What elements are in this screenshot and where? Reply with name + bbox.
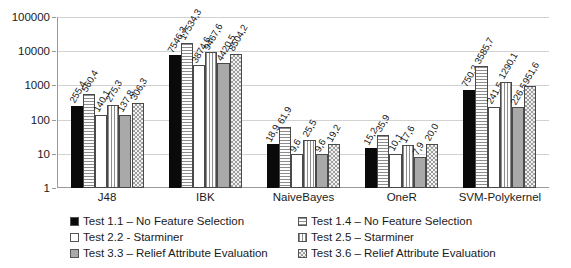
x-axis-category-label: OneR	[387, 190, 417, 204]
legend-item: Test 3.3 – Relief Attribute Evaluation	[70, 245, 282, 261]
y-axis-tick-label: 10000	[18, 45, 50, 57]
legend-swatch-icon	[70, 217, 79, 226]
bar: 140,1	[95, 115, 107, 188]
legend-item: Test 1.4 – No Feature Selection	[298, 213, 510, 229]
legend-label: Test 3.6 – Relief Attribute Evaluation	[311, 246, 496, 260]
legend-item: Test 2.5 – Starminer	[298, 229, 510, 245]
bar: 19,2	[328, 144, 340, 188]
x-axis-labels: J48IBKNaiveBayesOneRSVM-Polykernel	[58, 190, 549, 206]
bar: 4420,5	[217, 63, 229, 188]
y-axis: 110100100010000100000	[0, 17, 52, 188]
bar: 8504,2	[230, 54, 242, 188]
bar: 750,2	[463, 90, 475, 188]
bar-value-label: 951,6	[521, 60, 541, 85]
bar: 9,6	[291, 154, 303, 188]
bar: 61,9	[279, 127, 291, 188]
bar: 137,8	[119, 115, 131, 188]
legend-label: Test 1.1 – No Feature Selection	[83, 214, 244, 228]
y-axis-tick-label: 1000	[24, 79, 50, 91]
bar-value-label: 20,0	[423, 122, 440, 142]
y-axis-tick-mark	[52, 188, 56, 189]
y-axis-tick-mark	[52, 154, 56, 155]
bar: 7,9	[414, 157, 426, 188]
bar: 226,5	[512, 107, 524, 188]
bar-value-label: 17,6	[399, 124, 416, 144]
bar: 9,6	[316, 154, 328, 188]
legend-item: Test 1.1 – No Feature Selection	[70, 213, 282, 229]
y-axis-tick-mark	[52, 51, 56, 52]
bar-value-label: 61,9	[276, 105, 293, 125]
bar: 10,1	[389, 154, 401, 188]
legend-swatch-icon	[70, 233, 79, 242]
y-axis-tick-label: 1	[44, 182, 50, 194]
y-axis-tick-label: 100000	[12, 11, 50, 23]
bar-value-label: 3585,7	[472, 36, 494, 65]
bar-group: 15,235,910,117,67,920,0	[353, 17, 451, 188]
bar-group: 18,961,99,625,59,619,2	[254, 17, 352, 188]
bar: 951,6	[524, 86, 536, 188]
bar-value-label: 560,4	[80, 68, 100, 93]
bar-group: 7546,317534,33874,69467,64420,58504,2	[156, 17, 254, 188]
bar-groups: 255,4560,4140,1275,3137,8306,37546,31753…	[58, 17, 549, 188]
legend-label: Test 2.5 – Starminer	[311, 230, 414, 244]
legend-swatch-icon	[70, 249, 79, 258]
x-axis-category-label: SVM-Polykernel	[459, 190, 541, 204]
bar: 255,4	[71, 106, 83, 188]
legend-item: Test 3.6 – Relief Attribute Evaluation	[298, 245, 510, 261]
x-axis-category-label: NaiveBayes	[273, 190, 334, 204]
bar-group: 255,4560,4140,1275,3137,8306,3	[58, 17, 156, 188]
y-axis-tick-mark	[52, 17, 56, 18]
bar: 17534,3	[181, 43, 193, 188]
bar: 20,0	[426, 144, 438, 188]
bar: 275,3	[107, 105, 119, 188]
legend-item: Test 2.2 - Starminer	[70, 229, 282, 245]
legend-label: Test 2.2 - Starminer	[83, 230, 183, 244]
bar: 9467,6	[205, 52, 217, 188]
bar-value-label: 306,3	[128, 77, 148, 102]
bar: 15,2	[365, 148, 377, 188]
bar-group: 750,23585,7241,51290,1226,5951,6	[451, 17, 549, 188]
bar: 7546,3	[169, 55, 181, 188]
x-axis-category-label: J48	[98, 190, 117, 204]
bar-value-label: 25,5	[300, 118, 317, 138]
bar: 18,9	[267, 144, 279, 188]
bar-value-label: 19,2	[325, 123, 342, 143]
bar-chart: 110100100010000100000 255,4560,4140,1275…	[0, 0, 571, 268]
y-axis-tick-label: 10	[37, 148, 50, 160]
bar-value-label: 17534,3	[178, 8, 203, 42]
legend-swatch-icon	[298, 249, 307, 258]
bar: 306,3	[132, 103, 144, 188]
bar: 3874,6	[193, 65, 205, 188]
legend-swatch-icon	[298, 217, 307, 226]
bar-value-label: 1290,1	[497, 51, 519, 80]
legend-label: Test 1.4 – No Feature Selection	[311, 214, 472, 228]
x-axis-category-label: IBK	[196, 190, 215, 204]
bar: 3585,7	[475, 66, 487, 188]
bar: 241,5	[488, 107, 500, 188]
y-axis-tick-label: 100	[31, 114, 50, 126]
y-axis-tick-mark	[52, 120, 56, 121]
legend-swatch-icon	[298, 233, 307, 242]
chart-legend: Test 1.1 – No Feature SelectionTest 1.4 …	[70, 213, 510, 261]
y-axis-tick-mark	[52, 85, 56, 86]
bar-value-label: 35,9	[374, 113, 391, 133]
bar-value-label: 8504,2	[227, 23, 249, 52]
legend-label: Test 3.3 – Relief Attribute Evaluation	[83, 246, 268, 260]
